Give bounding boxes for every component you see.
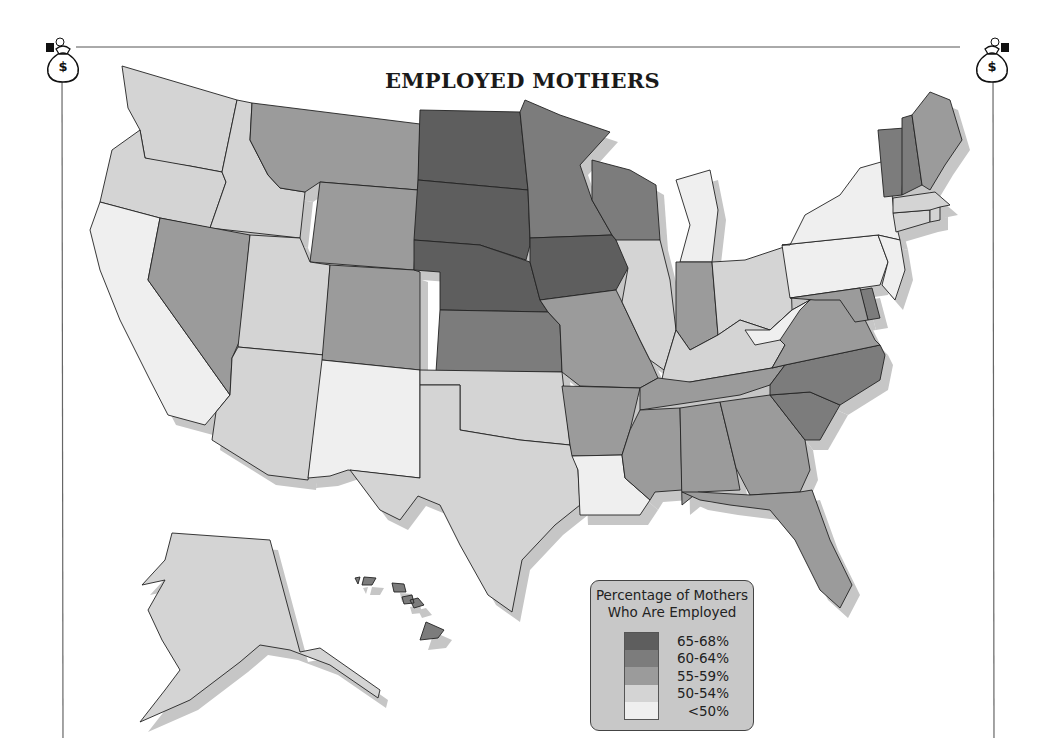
state-ks: [436, 310, 562, 372]
legend-item: 50-54%: [624, 685, 729, 703]
legend-title: Percentage of Mothers Who Are Employed: [591, 587, 753, 621]
legend-label: <50%: [669, 703, 729, 719]
legend-label: 60-64%: [669, 650, 729, 666]
legend-title-line1: Percentage of Mothers: [591, 587, 753, 604]
state-in: [676, 262, 718, 350]
state-ak: [140, 533, 380, 722]
state-co: [322, 265, 420, 370]
legend-label: 50-54%: [669, 685, 729, 701]
legend-swatch: [624, 685, 659, 703]
state-mt: [250, 103, 420, 192]
state-hi: [355, 577, 444, 640]
state-nm: [308, 360, 420, 478]
legend: Percentage of Mothers Who Are Employed 6…: [590, 580, 754, 731]
legend-swatch: [624, 650, 659, 668]
legend-label: 65-68%: [669, 633, 729, 649]
frame-left-line: [62, 75, 63, 738]
legend-label: 55-59%: [669, 668, 729, 684]
legend-item: 55-59%: [624, 667, 729, 685]
legend-item: 65-68%: [624, 632, 729, 650]
legend-swatch: [624, 667, 659, 685]
state-wy: [310, 182, 418, 270]
state-nd: [418, 110, 528, 190]
legend-rows: 65-68% 60-64% 55-59% 50-54% <50%: [624, 632, 729, 720]
legend-swatch: [624, 632, 659, 650]
legend-item: 60-64%: [624, 650, 729, 668]
legend-title-line2: Who Are Employed: [591, 604, 753, 621]
legend-swatch: [624, 702, 659, 720]
legend-item: <50%: [624, 702, 729, 720]
frame-right-line: [993, 75, 994, 738]
map-title: EMPLOYED MOTHERS: [0, 68, 1045, 93]
map-canvas: $: [0, 0, 1045, 741]
us-states: [90, 66, 962, 722]
state-mi: [676, 170, 718, 262]
